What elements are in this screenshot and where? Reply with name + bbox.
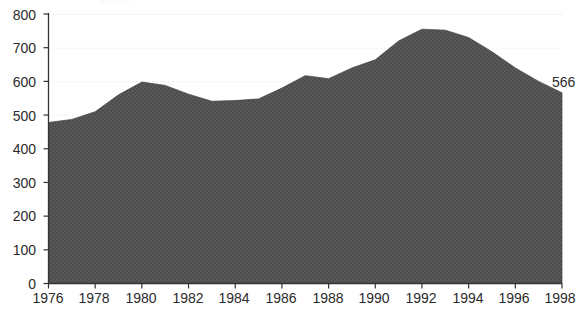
x-tick-label-1986: 1986 (259, 290, 303, 306)
y-tick-label-200: 200 (2, 208, 36, 224)
y-tick-label-600: 600 (2, 74, 36, 90)
y-axis-ticks (44, 14, 49, 284)
y-tick-label-700: 700 (2, 40, 36, 56)
x-tick-label-1976: 1976 (26, 290, 70, 306)
end-value-annotation: 566 (552, 74, 575, 90)
x-tick-label-1984: 1984 (212, 290, 256, 306)
area-chart: = ~ -- - , - (0, 0, 583, 318)
y-tick-label-300: 300 (2, 175, 36, 191)
area-series-fill (49, 29, 563, 283)
y-tick-label-500: 500 (2, 108, 36, 124)
x-axis-ticks (49, 284, 563, 289)
x-tick-label-1998: 1998 (538, 290, 582, 306)
y-tick-label-800: 800 (2, 7, 36, 23)
x-tick-label-1978: 1978 (72, 290, 116, 306)
x-tick-label-1990: 1990 (352, 290, 396, 306)
y-tick-label-100: 100 (2, 242, 36, 258)
y-tick-label-400: 400 (2, 141, 36, 157)
x-tick-label-1994: 1994 (446, 290, 490, 306)
x-tick-label-1988: 1988 (306, 290, 350, 306)
chart-plot-area (0, 0, 583, 318)
x-tick-label-1982: 1982 (166, 290, 210, 306)
x-tick-label-1996: 1996 (492, 290, 536, 306)
x-tick-label-1980: 1980 (119, 290, 163, 306)
x-tick-label-1992: 1992 (399, 290, 443, 306)
